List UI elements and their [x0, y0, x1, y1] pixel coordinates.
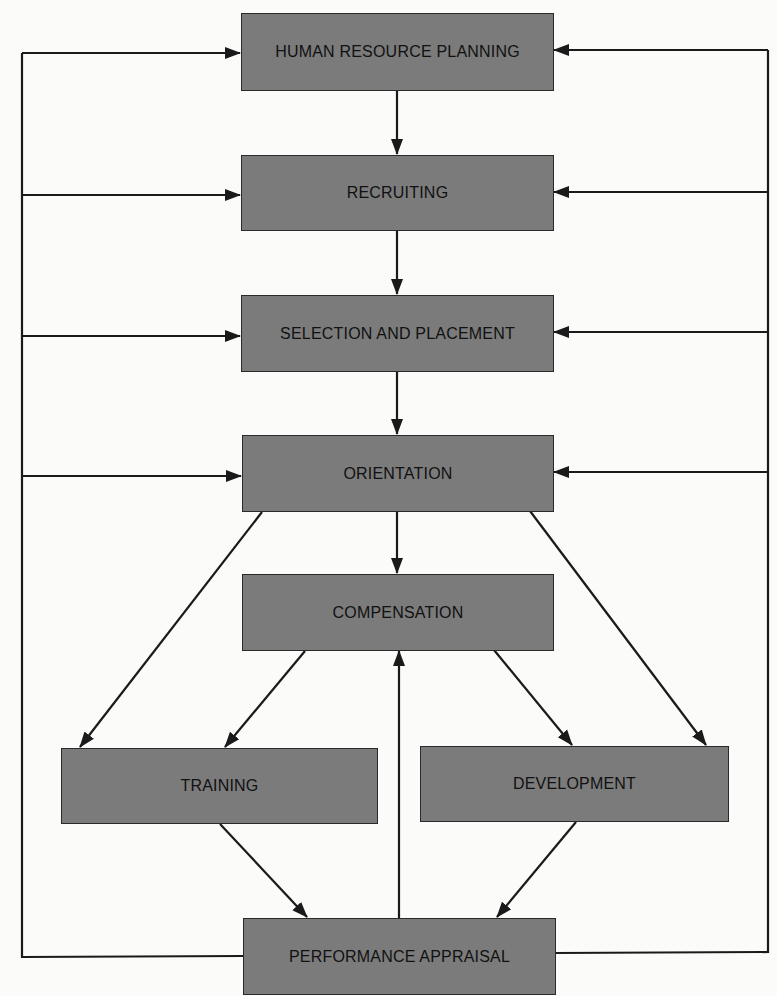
node-label: ORIENTATION	[343, 465, 452, 483]
arrow-orientation-to-development	[530, 511, 706, 745]
arrow-development-to-appraisal	[497, 822, 576, 917]
node-compensation: COMPENSATION	[242, 574, 554, 651]
node-recruiting: RECRUITING	[241, 155, 554, 231]
node-label: PERFORMANCE APPRAISAL	[289, 948, 510, 966]
node-performance-appraisal: PERFORMANCE APPRAISAL	[243, 918, 556, 995]
node-label: SELECTION AND PLACEMENT	[280, 325, 515, 343]
node-selection-and-placement: SELECTION AND PLACEMENT	[241, 295, 554, 372]
node-label: DEVELOPMENT	[513, 775, 636, 793]
node-orientation: ORIENTATION	[242, 435, 554, 512]
arrow-compensation-to-training	[225, 651, 305, 747]
arrow-orientation-to-training	[80, 512, 262, 747]
node-label: TRAINING	[180, 777, 258, 795]
arrow-training-to-appraisal	[220, 824, 307, 917]
node-development: DEVELOPMENT	[420, 746, 729, 822]
node-human-resource-planning: HUMAN RESOURCE PLANNING	[241, 13, 554, 91]
node-label: HUMAN RESOURCE PLANNING	[275, 43, 520, 61]
node-label: RECRUITING	[347, 184, 449, 202]
node-training: TRAINING	[61, 748, 378, 824]
arrow-compensation-to-development	[494, 650, 572, 745]
node-label: COMPENSATION	[332, 604, 463, 622]
